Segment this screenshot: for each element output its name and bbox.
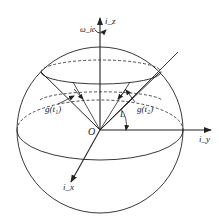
x-axis — [71, 130, 100, 182]
origin-label: O — [88, 126, 95, 137]
latitude-back — [41, 60, 161, 72]
angle-L-label: L — [119, 109, 125, 119]
sphere-diagram: i_z ω_ie i_y i_x O L g(t₁) g(t₂) — [0, 0, 219, 223]
g-t2-label: g(t₂) — [137, 104, 153, 114]
g-t2-arrow-2 — [118, 89, 126, 99]
x-axis-label: i_x — [63, 182, 74, 192]
latitude-mid — [40, 92, 162, 100]
rotation-axis-line — [100, 52, 178, 130]
y-axis-label: i_y — [199, 134, 210, 144]
g-t1-arrow-2 — [74, 89, 83, 99]
omega-label: ω_ie — [80, 25, 96, 34]
equator-front — [17, 130, 183, 160]
inner-line-left — [73, 82, 100, 130]
g-t1-label: g(t₁) — [45, 104, 61, 114]
z-axis-label: i_z — [105, 16, 116, 26]
cone-top-ellipse — [41, 72, 161, 84]
cone-side-left — [41, 72, 100, 130]
